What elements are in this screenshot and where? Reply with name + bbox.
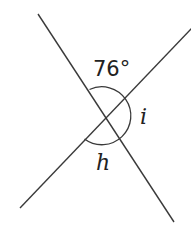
diagram-canvas: [0, 0, 191, 227]
angle-label-h: h: [96, 150, 110, 175]
line-ascending: [20, 28, 191, 208]
angle-label-i: i: [140, 104, 147, 129]
angle-label-76: 76°: [93, 57, 130, 81]
